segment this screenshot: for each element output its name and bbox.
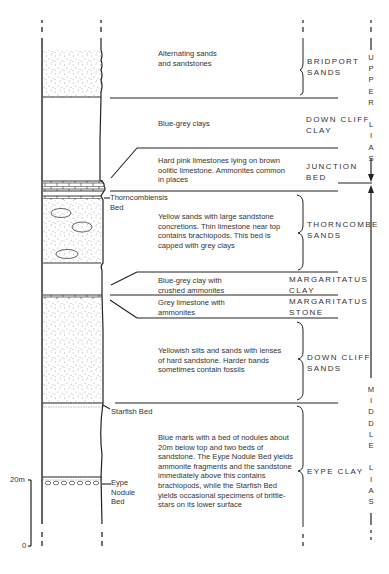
nodule-row: [45, 481, 99, 485]
description-margaritatus-clay: Blue-grey clay with crushed ammonites: [158, 276, 224, 295]
description-down-cliff-sands: Yellowish silts and sands with lenses of…: [158, 346, 281, 375]
description-junction-bed: Hard pink limestones lying on brown ooli…: [158, 156, 285, 185]
junction-bed-layer: [43, 181, 104, 191]
unit-name-thorncombe-sands: THORNCOMBESANDS: [307, 219, 379, 241]
description-eype-clay: Blue marls with a bed of nodules about 2…: [158, 433, 293, 510]
label-thorncombiensis-bed: Thorncombiensis Bed: [110, 193, 168, 212]
scale-label-0: 0: [22, 541, 26, 550]
arrow-up-icon: [368, 185, 374, 193]
thorncombe-sands-layer: [43, 200, 101, 263]
unit-name-margaritatus-clay: MARGARITATUSCLAY: [289, 274, 368, 296]
eype-sandstone-layer: [43, 477, 102, 480]
description-margaritatus-stone: Grey limestone with ammonites: [158, 298, 225, 317]
unit-name-bridport-sands: BRIDPORTSANDS: [307, 56, 359, 78]
starfish-bed-layer: [43, 403, 103, 407]
column-right-edge: [100, 38, 105, 524]
unit-name-junction-bed: JUNCTIONBED: [306, 161, 358, 183]
stage-label-middle-lias: MIDDLE LIAS: [366, 384, 376, 507]
unit-name-eype-clay: EYPE CLAY: [307, 466, 363, 477]
thorncombiensis-bed-layer: [43, 196, 101, 200]
description-thorncombe-sands: Yellow sands with large sandstone concre…: [158, 212, 280, 250]
description-bridport-sands: Alternating sands and sandstones: [158, 49, 217, 68]
scale-bar: [28, 480, 31, 546]
bridport-sands-layer: [43, 50, 101, 97]
unit-name-down-cliff-sands: DOWN CLIFFSANDS: [307, 352, 371, 374]
margaritatus-stone-layer: [43, 295, 102, 299]
column-top-dashes: [42, 20, 101, 32]
label-starfish-bed: Starfish Bed: [111, 407, 152, 417]
unit-name-down-cliff-clay: DOWN CLIFFCLAY: [306, 114, 370, 136]
arrow-down-icon: [368, 174, 374, 182]
down-cliff-sands-layer: [43, 299, 103, 403]
stage-label-upper-lias: UPPER LIAS: [366, 52, 376, 164]
column-boundaries: [43, 97, 104, 477]
label-eype-nodule-bed: Eype Nodule Bed: [111, 478, 135, 507]
scale-label-20m: 20m: [10, 475, 25, 484]
unit-name-margaritatus-stone: MARGARITATUSSTONE: [289, 296, 368, 318]
description-down-cliff-clay: Blue-grey clays: [158, 119, 210, 129]
